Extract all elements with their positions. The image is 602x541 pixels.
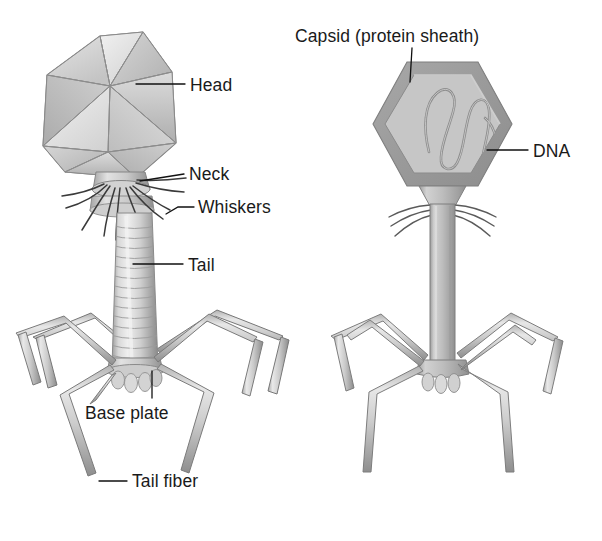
schematic-neck: [419, 186, 466, 206]
capsid: [373, 62, 512, 186]
label-capsid: Capsid (protein sheath): [295, 26, 479, 46]
phage-tail: [110, 213, 160, 366]
bacteriophage-diagram: Head Neck Whiskers Tail Base plate Tail …: [0, 0, 602, 541]
label-base-plate: Base plate: [85, 403, 169, 423]
phage-head: [43, 32, 176, 178]
schematic-base-plate-pins: [422, 373, 460, 394]
schematic-tail: [430, 204, 455, 364]
label-neck: Neck: [189, 164, 229, 184]
label-tail: Tail: [188, 255, 215, 275]
label-head: Head: [190, 75, 232, 95]
right-phage-schematic: [331, 62, 563, 472]
label-tail-fiber: Tail fiber: [132, 471, 198, 491]
phage-base-plate: [107, 358, 163, 393]
label-whiskers: Whiskers: [198, 197, 271, 217]
bacteriophage-figure: Head Neck Whiskers Tail Base plate Tail …: [0, 0, 602, 541]
schematic-base-plate: [417, 360, 469, 394]
label-dna: DNA: [533, 141, 570, 161]
